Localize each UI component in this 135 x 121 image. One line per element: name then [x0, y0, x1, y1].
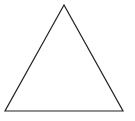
triangle-figure	[0, 0, 135, 121]
triangle-shape	[5, 5, 123, 111]
diagram-canvas	[0, 0, 135, 121]
